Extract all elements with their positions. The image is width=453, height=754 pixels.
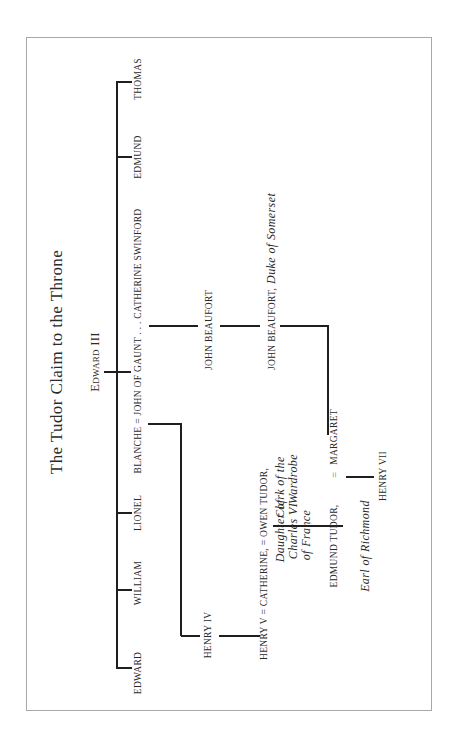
child-lionel: LIONEL — [134, 495, 144, 531]
catherine-desc-2: Charles VI — [287, 503, 299, 559]
margaret-label: MARGARET — [330, 409, 340, 465]
family-tree: The Tudor Claim to the Throne Edward III… — [26, 37, 432, 711]
henry-iv-drop — [181, 635, 200, 637]
owen-desc-1: Clerk of the — [274, 456, 286, 517]
duke-descent-line — [280, 325, 328, 327]
marriage-sign: = — [330, 472, 340, 478]
child-william: WILLIAM — [134, 561, 144, 605]
tick-william — [117, 589, 132, 591]
blanche-to-henry-iv-line — [180, 423, 182, 636]
john-beaufort-duke-name: JOHN BEAUFORT, — [267, 288, 277, 370]
catherine-desc-3: of France — [300, 510, 312, 561]
page-title: The Tudor Claim to the Throne — [48, 250, 65, 474]
tick-edward — [117, 667, 132, 669]
henry-vii-label: HENRY VII — [379, 451, 389, 501]
edmund-tudor-label: EDMUND TUDOR, — [330, 505, 340, 588]
henry-iv-to-henry-v-line — [219, 635, 260, 637]
child-edward: EDWARD — [134, 652, 144, 694]
edmund-tudor-title: Earl of Richmond — [359, 500, 371, 592]
child-john-of-gaunt-marriages: BLANCHE = JOHN OF GAUNT . . . CATHERINE … — [134, 208, 144, 473]
tick-lionel — [117, 512, 132, 514]
john-beaufort-duke-row: JOHN BEAUFORT, Duke of Somerset — [262, 193, 278, 370]
tick-thomas — [117, 81, 132, 83]
swinford-descent-line — [149, 325, 198, 327]
edward-iii-label: Edward III — [89, 332, 102, 391]
owen-desc-2: Wardrobe — [287, 454, 299, 504]
child-thomas: THOMAS — [134, 58, 144, 100]
child-edmund: EDMUND — [134, 135, 144, 179]
henry-v-catherine-owen-row: HENRY V = CATHERINE, = OWEN TUDOR, — [260, 468, 270, 660]
henry-vii-descent-line — [346, 476, 374, 478]
blanche-descent-line — [148, 423, 181, 425]
siblings-bar — [116, 81, 118, 669]
john-beaufort-label: JOHN BEAUFORT — [205, 290, 215, 370]
tick-edmund — [117, 156, 132, 158]
henry-iv-label: HENRY IV — [204, 612, 214, 659]
duke-to-margaret-line — [327, 325, 329, 435]
john-beaufort-descent-line — [220, 325, 260, 327]
john-beaufort-duke-title: Duke of Somerset — [264, 193, 278, 284]
